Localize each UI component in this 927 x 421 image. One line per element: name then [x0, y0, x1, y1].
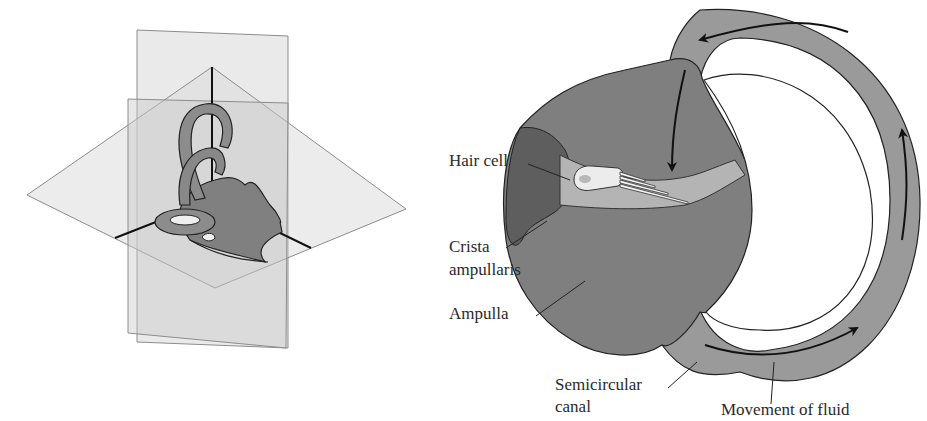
- label-hair-cell: Hair cell: [449, 151, 508, 171]
- semicircular-canal-diagram: [0, 0, 927, 421]
- ampulla-illustration: [504, 9, 921, 404]
- label-movement-of-fluid: Movement of fluid: [721, 400, 849, 420]
- label-crista-line1: Crista: [449, 237, 490, 257]
- label-ampulla: Ampulla: [449, 304, 509, 324]
- label-canal-line1: Semicircular: [555, 375, 642, 395]
- orthogonal-planes-illustration: [27, 30, 406, 348]
- label-crista-line2: ampullaris: [449, 260, 521, 280]
- label-canal-line2: canal: [555, 397, 591, 417]
